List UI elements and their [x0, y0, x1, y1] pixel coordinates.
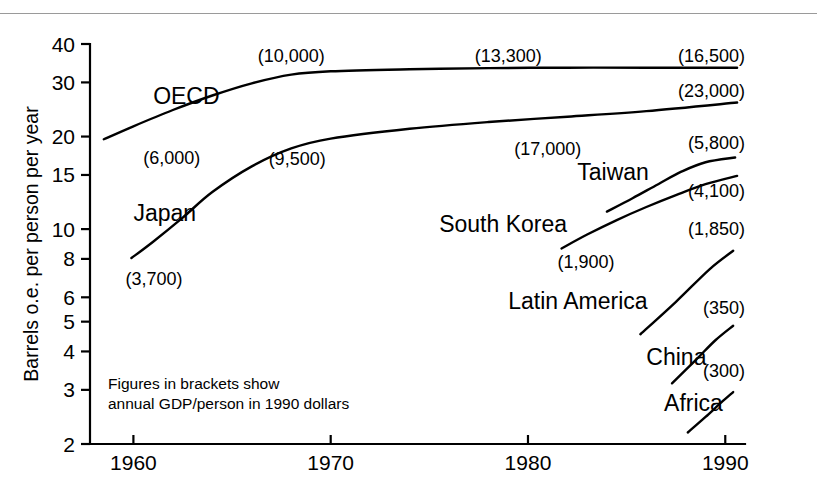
y-tick-label: 2: [63, 433, 75, 456]
chart-figure: 4030201510865432 1960197019801990 OECDJa…: [0, 0, 817, 494]
energy-gdp-line-chart: 4030201510865432 1960197019801990 OECDJa…: [0, 0, 817, 494]
y-axis-title-text: Barrels o.e. per person per year: [20, 106, 42, 382]
note-line: annual GDP/person in 1990 dollars: [108, 395, 350, 412]
gdp-annotation: (23,000): [678, 81, 745, 101]
y-tick-label: 4: [63, 340, 75, 363]
gdp-annotation: (10,000): [258, 46, 325, 66]
x-tick-label: 1990: [702, 451, 749, 474]
gdp-annotation: (1,850): [688, 219, 745, 239]
gdp-annotation: (16,500): [678, 46, 745, 66]
gdp-annotation: (1,900): [558, 252, 615, 272]
series-label-africa: Africa: [664, 390, 723, 416]
y-tick-label: 20: [52, 125, 75, 148]
y-tick-label: 40: [52, 33, 75, 56]
gdp-annotation: (300): [703, 361, 745, 381]
gdp-annotation: (4,100): [688, 181, 745, 201]
series-label-china: China: [646, 344, 706, 370]
gdp-annotation: (3,700): [126, 269, 183, 289]
x-tick-label: 1970: [307, 451, 354, 474]
y-axis-title: Barrels o.e. per person per year: [20, 106, 42, 382]
y-tick-label: 8: [63, 247, 75, 270]
series-labels: OECDJapanTaiwanSouth KoreaLatin AmericaC…: [133, 83, 723, 415]
x-tick-label: 1960: [110, 451, 157, 474]
x-axis: 1960197019801990: [90, 435, 749, 474]
gdp-annotation: (13,300): [475, 46, 542, 66]
series-label-oecd: OECD: [153, 83, 219, 109]
gdp-annotation: (5,800): [688, 133, 745, 153]
y-tick-label: 15: [52, 163, 75, 186]
y-tick-label: 10: [52, 218, 75, 241]
figure-note: Figures in brackets showannual GDP/perso…: [108, 375, 350, 412]
series-label-japan: Japan: [133, 200, 196, 226]
gdp-annotation: (350): [703, 298, 745, 318]
gdp-annotation: (6,000): [143, 148, 200, 168]
series-label-taiwan: Taiwan: [577, 159, 649, 185]
y-tick-label: 6: [63, 286, 75, 309]
series-label-latin-america: Latin America: [508, 288, 648, 314]
y-tick-label: 5: [63, 310, 75, 333]
gdp-annotation: (17,000): [514, 139, 581, 159]
y-axis: 4030201510865432: [52, 33, 90, 456]
x-tick-label: 1980: [505, 451, 552, 474]
y-tick-label: 3: [63, 378, 75, 401]
note-line: Figures in brackets show: [108, 375, 280, 392]
y-tick-label: 30: [52, 71, 75, 94]
gdp-annotation: (9,500): [269, 149, 326, 169]
series-curve-latin-america: [640, 251, 733, 334]
series-label-south-korea: South Korea: [439, 211, 567, 237]
